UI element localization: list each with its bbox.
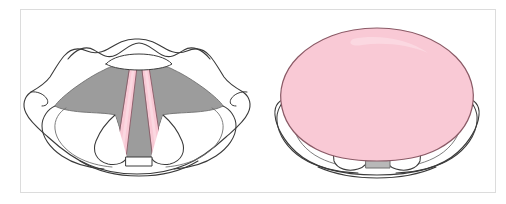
figure-root: Laryngoscopic views of the larynx Normal… [0, 0, 506, 204]
panel-swollen-epiglottis [258, 9, 496, 193]
panel-container [0, 0, 506, 204]
swollen-epiglottis-mass [281, 28, 474, 161]
normal-larynx-illustration [20, 9, 258, 193]
panel-normal-larynx [20, 9, 258, 193]
posterior-commissure [126, 157, 152, 166]
swollen-epiglottis-illustration [258, 9, 496, 193]
